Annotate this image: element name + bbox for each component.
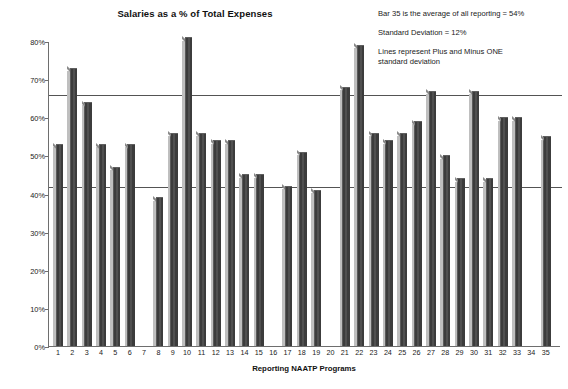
x-axis-tick-label: 35 xyxy=(539,348,553,357)
bar xyxy=(515,117,522,346)
bar xyxy=(170,133,177,347)
bar-slot xyxy=(211,41,223,346)
x-axis-tick-label: 18 xyxy=(295,348,309,357)
x-axis-tick-label: 16 xyxy=(266,348,280,357)
bar-slot xyxy=(354,41,366,346)
bar xyxy=(314,190,321,346)
y-axis-tick-label: 20% xyxy=(19,266,45,275)
x-axis-tick-label: 27 xyxy=(424,348,438,357)
x-axis-tick-label: 24 xyxy=(381,348,395,357)
x-axis-tick-label: 10 xyxy=(180,348,194,357)
x-axis-tick-label: 7 xyxy=(137,348,151,357)
x-axis-title: Reporting NAATP Programs xyxy=(48,364,560,373)
bar-slot xyxy=(67,41,79,346)
x-axis-tick-label: 5 xyxy=(108,348,122,357)
bar-slot xyxy=(125,41,137,346)
bar-slot xyxy=(182,41,194,346)
bar-slot xyxy=(483,41,495,346)
bar xyxy=(242,174,249,346)
bar-slot xyxy=(239,41,251,346)
x-axis-tick-label: 15 xyxy=(252,348,266,357)
bar-slot xyxy=(110,41,122,346)
bar xyxy=(457,178,464,346)
y-axis-tick-label: 70% xyxy=(19,76,45,85)
bar-slot xyxy=(168,41,180,346)
bar xyxy=(486,178,493,346)
bar xyxy=(500,117,507,346)
bar-slot xyxy=(397,41,409,346)
bar-slot xyxy=(153,41,165,346)
bar xyxy=(199,133,206,347)
y-axis-tick-label: 60% xyxy=(19,114,45,123)
x-axis-tick-label: 2 xyxy=(65,348,79,357)
bar-slot xyxy=(541,41,553,346)
bar-slot xyxy=(254,41,266,346)
x-axis-tick-label: 22 xyxy=(352,348,366,357)
bar xyxy=(472,91,479,346)
x-axis-tick-label: 28 xyxy=(438,348,452,357)
x-axis-tick-label: 31 xyxy=(481,348,495,357)
bar-slot xyxy=(326,41,338,346)
bar xyxy=(70,68,77,346)
bar xyxy=(299,152,306,346)
bar xyxy=(400,133,407,347)
x-axis-tick-label: 21 xyxy=(338,348,352,357)
bar xyxy=(99,144,106,346)
bar xyxy=(385,140,392,346)
x-axis-tick-label: 1 xyxy=(51,348,65,357)
bar-slot xyxy=(440,41,452,346)
x-axis-tick-label: 6 xyxy=(123,348,137,357)
x-axis-tick-label: 20 xyxy=(324,348,338,357)
chart-page: Salaries as a % of Total Expenses Bar 35… xyxy=(0,0,568,389)
bar xyxy=(371,133,378,347)
annotation-standard-deviation: Standard Deviation = 12% xyxy=(378,28,568,38)
bar xyxy=(285,186,292,346)
bar-slot xyxy=(82,41,94,346)
x-axis-tick-label: 13 xyxy=(223,348,237,357)
y-axis-tick-label: 50% xyxy=(19,152,45,161)
x-axis-tick-label: 23 xyxy=(367,348,381,357)
x-axis-tick-label: 12 xyxy=(209,348,223,357)
bar-slot xyxy=(139,41,151,346)
bar xyxy=(156,197,163,346)
x-axis-tick-label: 11 xyxy=(194,348,208,357)
bar-slot xyxy=(369,41,381,346)
y-axis-tick-label: 0% xyxy=(19,343,45,352)
bar-slot xyxy=(526,41,538,346)
bar-slot xyxy=(455,41,467,346)
x-axis-tick-label: 19 xyxy=(309,348,323,357)
bar-slot xyxy=(311,41,323,346)
plot-wrapper: Percent 0%10%20%30%40%50%60%70%80% 12345… xyxy=(48,42,560,347)
x-axis-tick-label: 33 xyxy=(510,348,524,357)
x-axis-tick-label: 14 xyxy=(237,348,251,357)
bar xyxy=(228,140,235,346)
bar-slot xyxy=(53,41,65,346)
x-axis-tick-label: 26 xyxy=(410,348,424,357)
x-axis-tick-label: 9 xyxy=(166,348,180,357)
bar-slot xyxy=(225,41,237,346)
bar-slot xyxy=(196,41,208,346)
x-axis-tick-label: 29 xyxy=(453,348,467,357)
annotation-average: Bar 35 is the average of all reporting =… xyxy=(378,9,568,19)
y-axis-tick-label: 30% xyxy=(19,228,45,237)
bar xyxy=(414,121,421,346)
x-axis-tick-label: 4 xyxy=(94,348,108,357)
bar xyxy=(213,140,220,346)
bar xyxy=(113,167,120,346)
x-axis-tick-label: 8 xyxy=(151,348,165,357)
y-axis-tick-mark xyxy=(45,347,49,348)
bar-slot xyxy=(383,41,395,346)
bar xyxy=(357,45,364,346)
bar-slot xyxy=(498,41,510,346)
bar xyxy=(185,37,192,346)
bar-slot xyxy=(469,41,481,346)
bar xyxy=(84,102,91,346)
bar xyxy=(256,174,263,346)
bar xyxy=(342,87,349,346)
x-axis-tick-label: 17 xyxy=(280,348,294,357)
bar-slot xyxy=(426,41,438,346)
bar-slot xyxy=(412,41,424,346)
bar xyxy=(127,144,134,346)
y-axis-tick-label: 10% xyxy=(19,304,45,313)
bar-slot xyxy=(340,41,352,346)
